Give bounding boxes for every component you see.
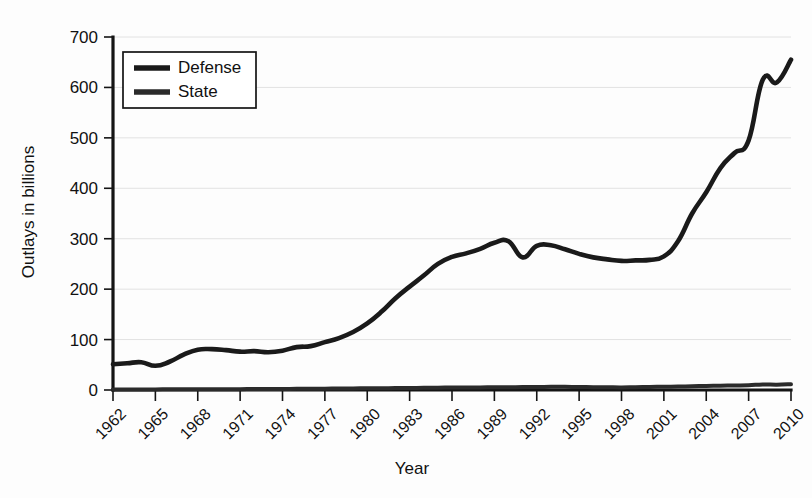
legend-label-defense: Defense — [178, 58, 241, 77]
x-tick-label: 1998 — [600, 405, 637, 442]
y-axis-tick-labels: 0100200300400500600700 — [70, 28, 98, 400]
x-tick-label: 1983 — [389, 405, 426, 442]
x-tick-label: 2001 — [643, 405, 680, 442]
x-tick-label: 2007 — [728, 405, 765, 442]
x-tick-label: 2004 — [685, 405, 722, 442]
x-tick-label: 1992 — [516, 405, 553, 442]
x-tick-label: 1986 — [431, 405, 468, 442]
y-tick-label: 400 — [70, 179, 98, 198]
x-axis-ticks — [113, 390, 791, 401]
x-tick-label: 1977 — [304, 405, 341, 442]
chart-legend: Defense State — [123, 52, 256, 108]
x-tick-label: 1980 — [346, 405, 383, 442]
legend-label-state: State — [178, 82, 218, 101]
y-axis-title: Outlays in billions — [19, 146, 38, 278]
line-chart: 0100200300400500600700 19621965196819711… — [0, 0, 812, 498]
x-axis-tick-labels: 1962196519681971197419771980198319861989… — [92, 405, 807, 442]
y-tick-label: 0 — [89, 381, 98, 400]
y-tick-label: 200 — [70, 280, 98, 299]
y-tick-label: 700 — [70, 28, 98, 47]
x-tick-label: 1971 — [219, 405, 256, 442]
x-tick-label: 1995 — [558, 405, 595, 442]
y-tick-label: 500 — [70, 129, 98, 148]
x-tick-label: 1989 — [473, 405, 510, 442]
y-tick-label: 300 — [70, 230, 98, 249]
x-tick-label: 1974 — [261, 405, 298, 442]
chart-container: 0100200300400500600700 19621965196819711… — [0, 0, 812, 498]
x-tick-label: 1962 — [92, 405, 129, 442]
x-axis-title: Year — [395, 459, 430, 478]
y-tick-label: 100 — [70, 331, 98, 350]
x-tick-label: 1968 — [177, 405, 214, 442]
x-tick-label: 1965 — [134, 405, 171, 442]
y-tick-label: 600 — [70, 78, 98, 97]
x-tick-label: 2010 — [770, 405, 807, 442]
